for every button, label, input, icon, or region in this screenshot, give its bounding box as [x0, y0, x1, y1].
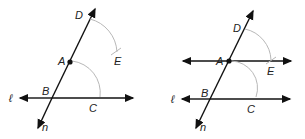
- arc-a-c: [72, 61, 100, 97]
- figure-left: D A E B C ℓ n: [0, 0, 150, 139]
- label-n: n: [200, 121, 206, 133]
- label-c: C: [89, 102, 97, 114]
- label-e: E: [114, 55, 122, 67]
- point-a: [67, 59, 72, 64]
- label-b: B: [201, 87, 208, 99]
- line-n: [52, 9, 95, 98]
- arc-a-c: [231, 61, 258, 97]
- arc-d-e: [90, 19, 117, 52]
- label-a: A: [215, 55, 223, 67]
- label-b: B: [42, 85, 49, 97]
- label-l: ℓ: [8, 92, 13, 104]
- arc-d-e: [245, 29, 271, 60]
- label-a: A: [57, 55, 65, 67]
- label-n: n: [42, 121, 48, 133]
- point-a: [226, 58, 231, 63]
- label-c: C: [247, 103, 255, 115]
- label-d: D: [233, 22, 241, 34]
- label-e: E: [267, 65, 275, 77]
- arc-mark-e: [111, 48, 121, 55]
- label-d: D: [75, 9, 83, 21]
- label-l: ℓ: [170, 93, 175, 105]
- figure-right: D A E B C ℓ n: [155, 0, 305, 139]
